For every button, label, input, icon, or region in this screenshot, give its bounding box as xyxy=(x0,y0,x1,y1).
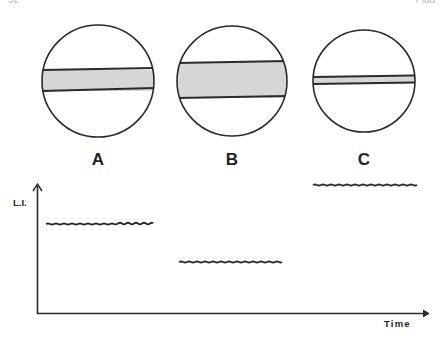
circle-a xyxy=(40,25,160,137)
series-a-line xyxy=(46,223,153,225)
label-a: A xyxy=(92,150,104,169)
diagram: A B C L.I. Time xyxy=(0,0,441,338)
band-b xyxy=(175,62,290,98)
circle-b xyxy=(175,26,290,136)
y-axis-label: L.I. xyxy=(13,197,27,208)
x-axis-arrow-icon xyxy=(423,310,429,317)
label-b: B xyxy=(226,150,238,169)
circle-c xyxy=(310,30,420,132)
series-c-line xyxy=(313,185,417,186)
series-b-line xyxy=(179,262,282,263)
x-axis-label: Time xyxy=(384,318,411,329)
label-c: C xyxy=(358,150,370,169)
chart-axes xyxy=(33,184,429,317)
